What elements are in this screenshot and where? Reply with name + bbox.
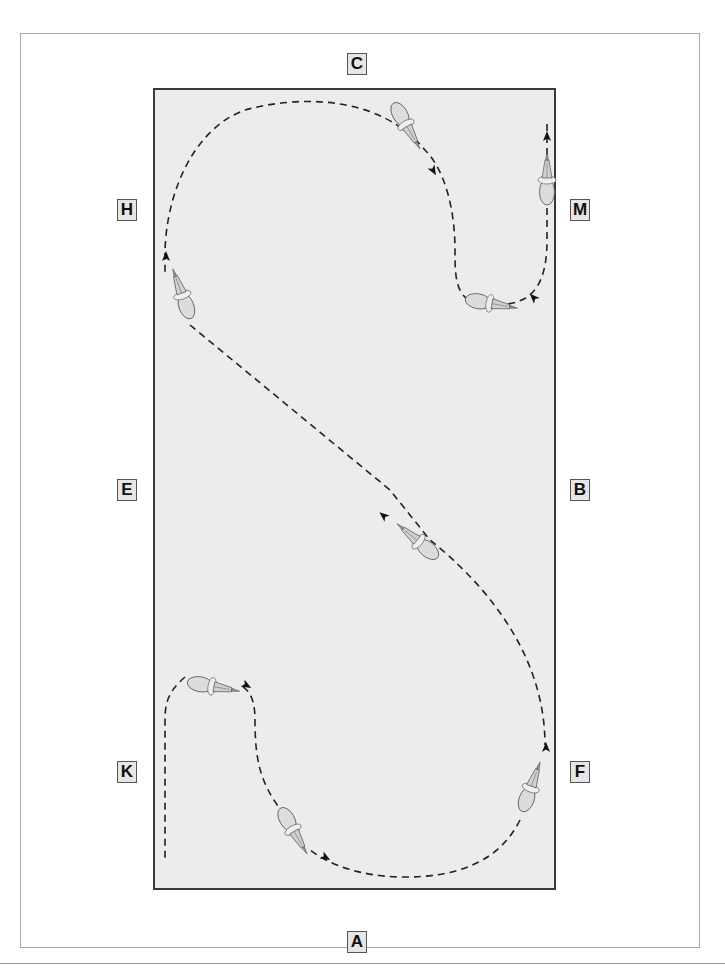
direction-arrow-icon: [428, 165, 440, 178]
horse-icon: [164, 266, 199, 322]
horse-icon: [514, 759, 549, 815]
direction-arrow-icon: [542, 742, 550, 752]
horse-icon: [186, 673, 241, 700]
route-path: [165, 101, 547, 877]
horse-icon: [273, 804, 315, 859]
direction-arrow-icon: [320, 852, 333, 864]
horse-icon: [538, 152, 556, 205]
direction-arrow-icon: [527, 291, 540, 304]
direction-arrow-icon: [162, 251, 170, 261]
horse-icon: [386, 99, 428, 154]
route-overlay: [0, 0, 725, 969]
direction-arrow-icon: [377, 509, 390, 522]
